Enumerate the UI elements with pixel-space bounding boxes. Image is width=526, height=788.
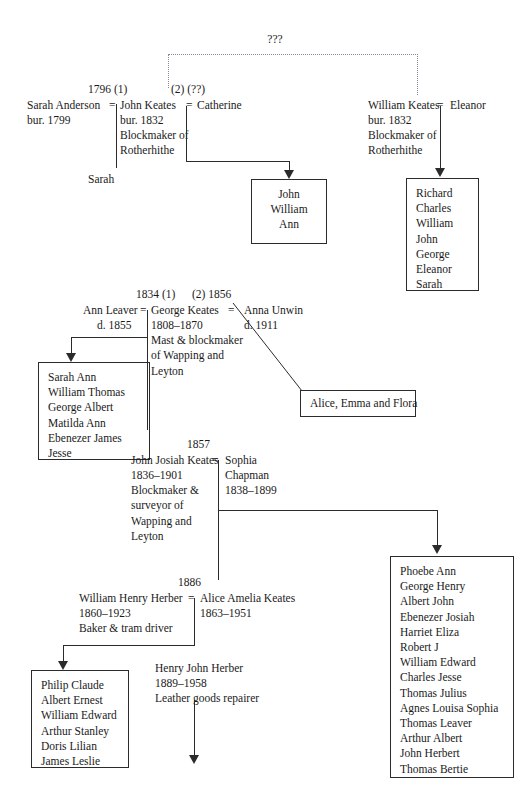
equals-sign-george-anna: = [228, 303, 235, 318]
arrow-catherine-children [284, 170, 294, 179]
arrow-john-josiah-children [432, 545, 442, 554]
children-box-catherine: John William Ann [251, 179, 327, 244]
marriage-note-second: (2) (??) [171, 82, 205, 97]
person-henry-john-herber: Henry John Herber [155, 661, 243, 676]
person-george-keates: George Keates [151, 303, 219, 318]
person-sophia-chapman: Sophia [225, 453, 257, 468]
descent-line-herber-couple [194, 598, 195, 646]
child-sarah: Sarah [88, 172, 114, 187]
children-box-ann-leaver: Sarah Ann William Thomas George Albert M… [38, 362, 150, 460]
person-sarah-anderson: Sarah Anderson [27, 98, 100, 113]
marriage-note-1856: (2) 1856 [192, 287, 231, 302]
person-anna-unwin: Anna Unwin [244, 303, 303, 318]
marriage-note-1834: 1834 (1) [136, 287, 175, 302]
equals-sign-sarah-john: = [109, 98, 116, 113]
person-ann-leaver: Ann Leaver [83, 303, 138, 318]
connector-herber-children-left [63, 645, 195, 646]
person-john-josiah-keates: John Josiah Keates [131, 453, 219, 468]
person-john-keates-detail: bur. 1832 Blockmaker of Rotherhithe [120, 113, 189, 159]
drop-john-josiah-children [437, 510, 438, 550]
person-william-keates-detail: bur. 1832 Blockmaker of Rotherhithe [368, 113, 437, 159]
person-ann-leaver-detail: d. 1855 [97, 318, 132, 333]
children-box-william-names: Richard Charles William John George Elea… [416, 186, 453, 292]
children-box-john-josiah-names: Phoebe Ann George Henry Albert John Eben… [400, 564, 498, 777]
person-william-keates: William Keates [368, 98, 439, 113]
children-box-william: Richard Charles William John George Elea… [406, 178, 479, 291]
connector-catherine-children [186, 161, 289, 162]
person-george-keates-detail: 1808–1870 Mast & blockmaker of Wapping a… [151, 318, 243, 379]
person-john-keates: John Keates [120, 98, 176, 113]
children-box-herber-names: Philip Claude Albert Ernest William Edwa… [41, 678, 117, 769]
equals-sign-ann-george: = [140, 303, 147, 318]
dotted-ancestor-connector [168, 54, 418, 55]
connector-john-josiah-children [218, 510, 438, 511]
arrow-henry-john-herber-descent [189, 755, 199, 764]
person-catherine: Catherine [197, 98, 242, 113]
unknown-ancestor-label: ??? [262, 32, 288, 47]
children-box-anna-unwin: Alice, Emma and Flora [300, 390, 416, 417]
children-box-catherine-names: John William Ann [252, 187, 326, 233]
descent-line-henry-john-herber [194, 700, 195, 758]
person-sophia-chapman-detail: Chapman 1838–1899 [225, 468, 277, 498]
person-william-henry-herber: William Henry Herber [79, 591, 183, 606]
descent-line-john-keates [116, 104, 117, 168]
person-henry-john-herber-detail: 1889–1958 Leather goods repairer [155, 676, 259, 706]
marriage-note-1796: 1796 (1) [88, 82, 127, 97]
dotted-drop-left [168, 54, 169, 88]
connector-george-children-left [71, 337, 148, 338]
descent-line-william-eleanor [440, 106, 441, 170]
genealogy-chart: ??? 1796 (1) Sarah Anderson bur. 1799 = … [0, 0, 526, 788]
children-box-herber: Philip Claude Albert Ernest William Edwa… [31, 670, 129, 768]
marriage-note-1857: 1857 [187, 437, 210, 452]
person-anna-unwin-detail: d. 1911 [244, 318, 278, 333]
person-alice-amelia-keates-detail: 1863–1951 [200, 606, 252, 621]
arrow-herber-children-left [58, 661, 68, 670]
descent-line-john-josiah [218, 460, 219, 580]
descent-line-catherine [186, 106, 187, 162]
person-alice-amelia-keates: Alice Amelia Keates [200, 591, 295, 606]
person-eleanor: Eleanor [450, 98, 486, 113]
children-box-anna-unwin-names: Alice, Emma and Flora [310, 396, 417, 411]
children-box-john-josiah: Phoebe Ann George Henry Albert John Eben… [390, 556, 514, 778]
dotted-drop-right [417, 54, 418, 95]
person-john-josiah-keates-detail: 1836–1901 Blockmaker & surveyor of Wappi… [131, 468, 199, 544]
marriage-note-1886: 1886 [178, 575, 201, 590]
arrow-george-children-left [66, 353, 76, 362]
person-sarah-anderson-detail: bur. 1799 [27, 113, 70, 128]
arrow-william-children [435, 168, 445, 177]
person-william-henry-herber-detail: 1860–1923 Baker & tram driver [79, 606, 173, 636]
children-box-ann-leaver-names: Sarah Ann William Thomas George Albert M… [48, 370, 125, 461]
